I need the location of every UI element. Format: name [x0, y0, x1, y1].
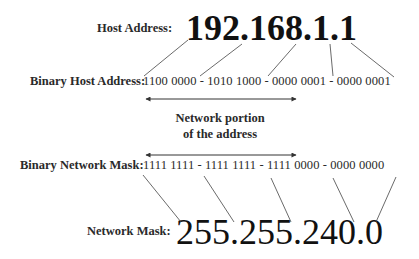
mask-octet4a-connector: [333, 178, 354, 222]
host-octet4a-connector: [330, 44, 333, 76]
mask-octet4b-connector: [376, 177, 396, 222]
host-octet1-connector: [144, 40, 188, 76]
mask-octet1-connector: [143, 175, 181, 222]
host-octet4b-connector: [351, 43, 394, 77]
host-octet2-connector: [200, 44, 242, 76]
connector-lines: [0, 0, 419, 259]
mask-octet3-connector: [271, 178, 291, 222]
mask-octet2-connector: [204, 176, 234, 222]
host-octet3-connector: [268, 44, 296, 76]
